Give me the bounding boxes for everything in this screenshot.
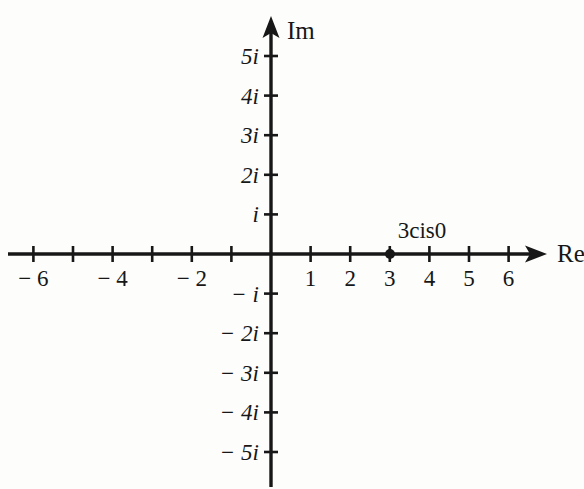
imaginary-axis-tick-label: − 3i [220, 361, 259, 384]
real-axis-tick-label: 5 [463, 267, 475, 290]
imaginary-axis-label: Im [287, 18, 315, 43]
imaginary-axis-tick-label: 3i [241, 124, 259, 147]
imaginary-axis-tick-label: 2i [241, 163, 259, 186]
imaginary-axis-tick-label: i [253, 203, 259, 226]
imaginary-axis-tick-label: − i [231, 282, 259, 305]
real-axis-tick-label: − 4 [97, 267, 127, 290]
real-axis-tick-label: − 6 [18, 267, 48, 290]
real-axis-tick-label: 1 [305, 267, 317, 290]
real-axis-tick-label: 6 [503, 267, 515, 290]
complex-plane-figure: Im Re − 6− 4− 21234565i4i3i2ii− i− 2i− 3… [0, 0, 584, 489]
plotted-point[interactable] [385, 249, 395, 259]
point-label: 3cis0 [398, 219, 447, 242]
imaginary-axis-tick-label: 5i [241, 45, 259, 68]
real-axis-tick-label: 2 [344, 267, 356, 290]
imaginary-axis-tick-label: − 4i [220, 401, 259, 424]
plot-canvas [0, 0, 584, 489]
real-axis-tick-label: − 2 [177, 267, 207, 290]
imaginary-axis-tick-label: − 5i [220, 441, 259, 464]
imaginary-axis-tick-label: − 2i [220, 322, 259, 345]
real-axis-tick-label: 4 [424, 267, 436, 290]
real-axis-label: Re [557, 241, 584, 266]
imaginary-axis-tick-label: 4i [241, 84, 259, 107]
real-axis-tick-label: 3 [384, 267, 396, 290]
